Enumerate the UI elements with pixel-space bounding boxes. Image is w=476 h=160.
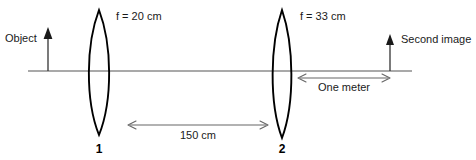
converging-lens-2	[273, 10, 292, 138]
second-image-arrow	[386, 34, 394, 71]
dimension-150cm	[128, 121, 268, 129]
lens2-focal-length-label: f = 33 cm	[300, 10, 346, 22]
lens2-number-label: 2	[279, 142, 286, 156]
one-meter-dimension-label: One meter	[318, 81, 370, 93]
150cm-dimension-label: 150 cm	[180, 129, 216, 141]
object-label: Object	[5, 32, 37, 44]
optics-diagram: Object f = 20 cm f = 33 cm Second image …	[0, 0, 476, 160]
object-arrow	[44, 27, 53, 71]
optics-diagram-canvas: Object f = 20 cm f = 33 cm Second image …	[0, 0, 476, 160]
second-image-label: Second image	[401, 33, 471, 45]
lens1-focal-length-label: f = 20 cm	[116, 10, 162, 22]
converging-lens-1	[89, 10, 109, 135]
lens1-number-label: 1	[96, 142, 103, 156]
